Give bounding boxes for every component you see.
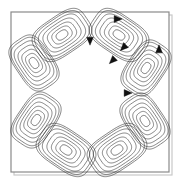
streamline-figure [0,0,180,188]
streamline-plot-canvas [0,0,180,188]
